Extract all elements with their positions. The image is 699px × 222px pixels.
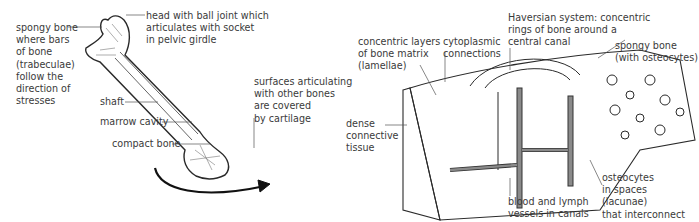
label-shaft: shaft — [100, 96, 124, 108]
label-lamellae: concentric layers of bone matrix (lamell… — [358, 36, 440, 73]
bone-structure-diagram: spongy bone where bars of bone (trabecul… — [0, 0, 699, 222]
label-osteocytes-lacunae: osteocytes in spaces (lacunae) that inte… — [602, 172, 685, 221]
label-articulating-surfaces: surfaces articulating with other bones a… — [254, 76, 352, 125]
label-marrow-cavity: marrow cavity — [100, 116, 168, 128]
label-spongy-bone-osteocytes: spongy bone (with osteocytes) — [615, 40, 698, 64]
label-compact-bone: compact bone — [112, 138, 181, 150]
label-head: head with ball joint which articulates w… — [146, 10, 269, 47]
label-spongy-bone-femur: spongy bone where bars of bone (trabecul… — [16, 22, 78, 107]
label-dense-connective-tissue: dense connective tissue — [346, 118, 399, 155]
label-blood-lymph-vessels: blood and lymph vessels in canals — [508, 196, 589, 220]
label-cytoplasmic-connections: cytoplasmic connections — [443, 36, 501, 60]
